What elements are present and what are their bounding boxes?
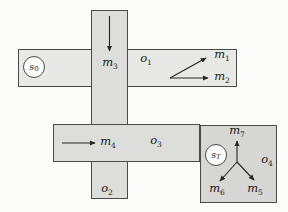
label-m5: m5 — [247, 183, 263, 197]
label-o2-base: o — [101, 181, 108, 195]
label-m3-sub: 3 — [113, 62, 118, 71]
label-m1-sub: 1 — [225, 54, 230, 63]
label-m7-sub: 7 — [240, 130, 245, 139]
label-m6: m6 — [209, 183, 225, 197]
label-m3: m3 — [102, 57, 118, 71]
label-o1-base: o — [140, 51, 147, 65]
label-m3-base: m — [102, 55, 113, 69]
label-o1: o1 — [140, 53, 152, 67]
label-m4-base: m — [100, 134, 111, 148]
label-m5-sub: 5 — [258, 188, 263, 197]
label-o1-sub: 1 — [147, 58, 152, 67]
corridor-o3 — [53, 124, 200, 162]
label-o3: o3 — [150, 135, 162, 149]
options-rooms-diagram: s0 sT o1 o2 o3 o4 m1 m2 m3 m4 m5 m6 m7 — [0, 0, 288, 212]
label-m1-base: m — [214, 47, 225, 61]
label-m7: m7 — [229, 125, 245, 139]
label-m1: m1 — [214, 49, 230, 63]
state-sT: sT — [205, 144, 227, 166]
label-m2-base: m — [214, 69, 225, 83]
label-m4-sub: 4 — [111, 141, 116, 150]
label-o3-sub: 3 — [157, 140, 162, 149]
label-m2-sub: 2 — [225, 76, 230, 85]
label-m6-base: m — [209, 181, 220, 195]
state-sT-sub: T — [216, 154, 221, 161]
state-s0: s0 — [23, 56, 45, 78]
label-o4: o4 — [261, 154, 273, 168]
label-o4-sub: 4 — [268, 159, 273, 168]
state-s0-sub: 0 — [34, 66, 38, 73]
corridor-o2 — [91, 10, 128, 199]
label-m6-sub: 6 — [220, 188, 225, 197]
label-m4: m4 — [100, 136, 116, 150]
label-o2: o2 — [101, 183, 113, 197]
label-o4-base: o — [261, 152, 268, 166]
label-m5-base: m — [247, 181, 258, 195]
label-o2-sub: 2 — [108, 188, 113, 197]
label-m2: m2 — [214, 71, 230, 85]
label-o3-base: o — [150, 133, 157, 147]
label-m7-base: m — [229, 123, 240, 137]
